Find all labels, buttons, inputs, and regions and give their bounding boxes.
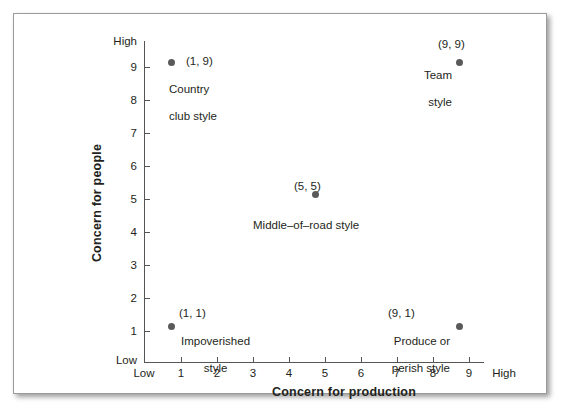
annotation-label-9-9-line2: style bbox=[410, 96, 452, 110]
annotation-label-1-9-line2: club style bbox=[169, 110, 217, 124]
annotation-label-9-1: Produce or perish style bbox=[380, 321, 450, 389]
y-tick-9 bbox=[145, 67, 150, 68]
annotation-coord-1-1: (1, 1) bbox=[179, 307, 206, 321]
y-tick-label-1: 1 bbox=[97, 325, 137, 337]
y-tick-7 bbox=[145, 133, 150, 134]
figure-card: 9 8 7 6 5 4 3 2 1 High Low 1 2 3 4 5 6 7… bbox=[13, 13, 547, 394]
y-axis-title: Concern for people bbox=[90, 98, 104, 308]
y-tick-6 bbox=[145, 166, 150, 167]
x-axis-high-label: High bbox=[484, 367, 524, 379]
annotation-label-1-9-line1: Country bbox=[169, 83, 217, 97]
annotation-label-1-1-line1: Impoverished bbox=[181, 335, 250, 349]
y-tick-1 bbox=[145, 331, 150, 332]
annotation-label-5-5: Middle–of–road style bbox=[253, 205, 359, 246]
x-tick-3 bbox=[253, 357, 254, 362]
x-tick-9 bbox=[469, 357, 470, 362]
annotation-coord-9-9: (9, 9) bbox=[438, 38, 465, 52]
annotation-label-9-1-line2: perish style bbox=[380, 362, 450, 376]
annotation-coord-1-9: (1, 9) bbox=[186, 55, 213, 69]
scatter-plot-area: 9 8 7 6 5 4 3 2 1 High Low 1 2 3 4 5 6 7… bbox=[14, 14, 546, 393]
y-axis-low-label: Low bbox=[87, 354, 137, 366]
y-axis-line bbox=[144, 41, 145, 362]
y-axis-high-label: High bbox=[87, 35, 137, 47]
x-tick-label-6: 6 bbox=[341, 367, 381, 379]
x-tick-label-5: 5 bbox=[305, 367, 345, 379]
annotation-label-9-9-line1: Team bbox=[410, 69, 452, 83]
data-point-1-9 bbox=[168, 59, 175, 66]
x-tick-6 bbox=[361, 357, 362, 362]
annotation-coord-5-5: (5, 5) bbox=[294, 180, 321, 194]
x-tick-label-9: 9 bbox=[449, 367, 489, 379]
data-point-9-1 bbox=[456, 323, 463, 330]
annotation-label-1-1-line2: style bbox=[181, 362, 250, 376]
x-tick-4 bbox=[289, 357, 290, 362]
x-tick-label-4: 4 bbox=[269, 367, 309, 379]
data-point-1-1 bbox=[168, 323, 175, 330]
annotation-label-9-1-line1: Produce or bbox=[380, 335, 450, 349]
data-point-9-9 bbox=[456, 59, 463, 66]
y-tick-4 bbox=[145, 232, 150, 233]
annotation-label-1-9: Country club style bbox=[169, 69, 217, 137]
annotation-coord-9-1: (9, 1) bbox=[388, 307, 415, 321]
y-tick-3 bbox=[145, 265, 150, 266]
annotation-label-9-9: Team style bbox=[410, 55, 452, 123]
x-tick-5 bbox=[325, 357, 326, 362]
y-tick-2 bbox=[145, 298, 150, 299]
annotation-label-5-5-line1: Middle–of–road style bbox=[253, 219, 359, 233]
annotation-label-1-1: Impoverished style bbox=[181, 321, 250, 389]
y-tick-8 bbox=[145, 100, 150, 101]
x-axis-low-label: Low bbox=[124, 367, 164, 379]
y-tick-label-9: 9 bbox=[97, 61, 137, 73]
y-tick-5 bbox=[145, 199, 150, 200]
